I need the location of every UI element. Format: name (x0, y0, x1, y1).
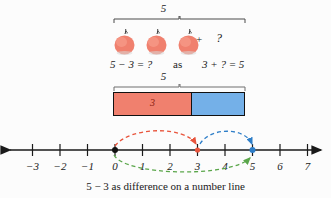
top-bracket-value: 5 (161, 2, 167, 14)
tick-label: 7 (305, 160, 311, 172)
bar-bracket-value: 5 (161, 70, 167, 82)
tick-label: −3 (26, 160, 39, 172)
equation-connector: as (173, 58, 182, 70)
unknown-question-mark: ? (216, 31, 222, 46)
arc-zero-to-five (114, 155, 250, 172)
bar-bracket (113, 84, 247, 92)
tick-label: 6 (277, 160, 283, 172)
tick-label: 1 (140, 160, 146, 172)
apples-group (113, 25, 248, 57)
equation-subtraction: 5 − 3 = ? (110, 58, 152, 70)
plus-sign: + (196, 33, 202, 45)
bar-model: 3 (113, 92, 245, 116)
apple-icon (113, 29, 137, 55)
bar-segment-blue (192, 93, 244, 115)
arc-zero-to-three (115, 131, 196, 146)
tick-label: 3 (194, 160, 201, 172)
top-bracket (113, 16, 247, 24)
bar-red-label: 3 (114, 97, 191, 108)
arc-three-to-five (200, 131, 252, 144)
apple-icon (145, 29, 169, 55)
origin-dot (112, 147, 118, 153)
three-dot (195, 147, 200, 152)
top-bracket-label: 5 (0, 2, 331, 14)
five-dot (250, 147, 256, 153)
tick-label: 2 (167, 160, 173, 172)
tick-label: 0 (112, 160, 118, 172)
tick-label: 4 (222, 160, 228, 172)
number-line-difference-figure: 5 + ? 5 − 3 = ? (0, 0, 331, 198)
bar-bracket-label: 5 (0, 70, 331, 82)
tick-label: −1 (81, 160, 94, 172)
number-line: −3 −2 −1 0 1 2 3 4 5 6 7 (0, 124, 331, 180)
bar-segment-red: 3 (114, 93, 192, 115)
tick-label: −2 (54, 160, 67, 172)
tick-label: 5 (250, 160, 256, 172)
equation-addition: 3 + ? = 5 (202, 58, 244, 70)
figure-caption: 5 − 3 as difference on a number line (0, 180, 331, 192)
